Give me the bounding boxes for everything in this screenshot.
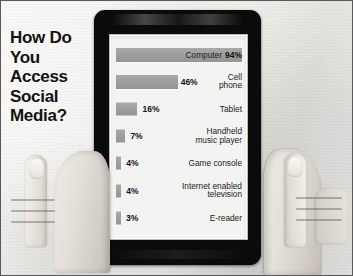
title-line-4: Social	[10, 88, 106, 106]
title-line-2: You	[10, 49, 106, 67]
title-line-5: Media?	[10, 107, 106, 125]
bar-value-label: 3%	[126, 213, 138, 223]
page-title: How Do You Access Social Media?	[10, 29, 106, 127]
bar-category-label: Computer	[186, 50, 222, 59]
bar-chart: 94%Computer46%Cell phone16%Tablet7%Handh…	[116, 41, 242, 234]
bar-category-label: Handheld music player	[195, 127, 242, 144]
chart-bar-row: 16%Tablet	[116, 95, 242, 122]
chart-bar-row: 4%Game console	[116, 150, 242, 177]
bar-value-label: 94%	[225, 50, 242, 60]
title-line-3: Access	[10, 68, 106, 86]
bar	[116, 157, 121, 170]
chart-bar-row: 94%Computer	[116, 41, 242, 68]
bar	[116, 75, 178, 89]
infographic-screenshot: How Do You Access Social Media? 94%Compu…	[0, 0, 353, 276]
bar-category-label: Tablet	[220, 105, 242, 114]
bar	[116, 211, 121, 224]
bar-category-label: Cell phone	[219, 73, 242, 90]
bar-category-label: Internet enabled television	[182, 182, 242, 199]
tablet-device: 94%Computer46%Cell phone16%Tablet7%Handh…	[94, 10, 261, 265]
right-knuckle-creases	[296, 197, 342, 239]
bar-value-label: 4%	[126, 186, 138, 196]
bar	[116, 130, 125, 143]
bar-value-label: 46%	[181, 77, 198, 87]
chart-bar-row: 3%E-reader	[116, 204, 242, 231]
left-thumbnail	[30, 159, 44, 179]
bar	[116, 48, 242, 62]
bar	[116, 184, 121, 197]
chart-bar-row: 46%Cell phone	[116, 68, 242, 95]
bar-value-label: 4%	[126, 158, 138, 168]
left-hand	[54, 151, 110, 273]
bar-value-label: 7%	[130, 131, 142, 141]
right-thumbnail	[288, 157, 302, 177]
bar-value-label: 16%	[142, 104, 159, 114]
chart-bar-row: 4%Internet enabled television	[116, 177, 242, 204]
bar-category-label: Game console	[189, 159, 243, 168]
bar	[116, 102, 137, 115]
tablet-screen: 94%Computer46%Cell phone16%Tablet7%Handh…	[109, 34, 248, 240]
left-knuckle-creases	[11, 199, 55, 239]
chart-bar-row: 7%Handheld music player	[116, 123, 242, 150]
title-line-1: How Do	[10, 29, 106, 47]
bar-category-label: E-reader	[210, 213, 242, 222]
